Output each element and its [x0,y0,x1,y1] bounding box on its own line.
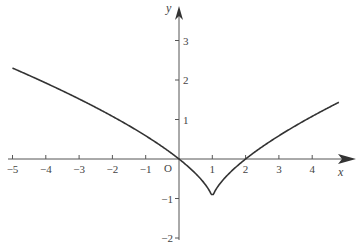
y-tick-label: −1 [161,193,173,205]
x-tick-label: 1 [210,163,216,175]
y-tick-label: 3 [183,35,189,47]
x-axis-label: x [337,165,344,179]
x-tick-label: 2 [243,163,249,175]
y-tick-label: 1 [183,114,189,126]
tick-labels: −5−4−3−2−11234321−1−2 [7,35,316,243]
x-tick-label: 3 [276,163,282,175]
x-tick-label: −3 [73,163,85,175]
y-axis-label: y [165,1,172,15]
function-curve [13,68,339,194]
y-tick-label: −2 [161,232,173,243]
x-tick-label: −2 [107,163,119,175]
y-tick-label: 2 [183,74,189,86]
x-tick-label: −1 [140,163,152,175]
function-graph: −5−4−3−2−11234321−1−2 x y O [0,0,360,243]
x-tick-label: 4 [309,163,315,175]
axes [8,6,356,240]
ticks [13,41,313,239]
x-tick-label: −4 [40,163,52,175]
origin-label: O [164,162,172,174]
x-tick-label: −5 [7,163,19,175]
